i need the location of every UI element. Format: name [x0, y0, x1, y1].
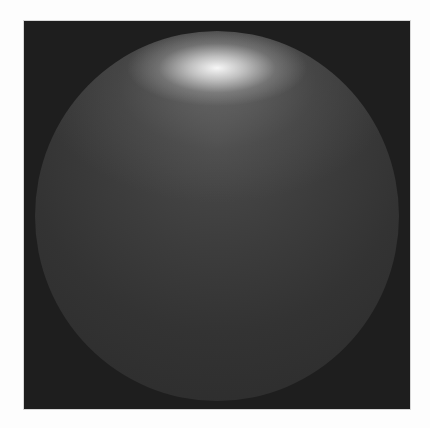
sphere: [35, 31, 399, 401]
render-frame: [24, 21, 410, 409]
sphere-rim: [35, 31, 399, 401]
